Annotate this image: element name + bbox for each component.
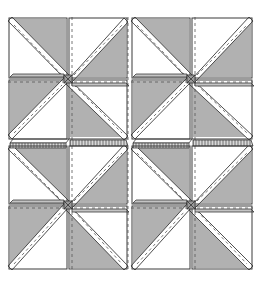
hub-top-right	[187, 75, 195, 83]
quilt-diagram	[0, 0, 269, 287]
hub-top-left	[64, 75, 72, 83]
hub-bottom-right	[187, 201, 195, 209]
hub-bottom-left	[64, 201, 72, 209]
quilt-svg	[0, 0, 269, 287]
